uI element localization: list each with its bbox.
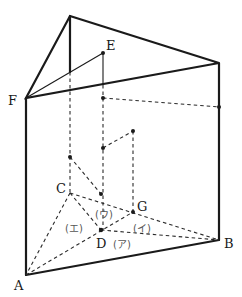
point-G (131, 210, 135, 214)
label-C: C (56, 181, 66, 196)
region-label-e: (エ) (65, 223, 83, 234)
region-label-u: (ウ) (95, 209, 113, 220)
point-D (99, 228, 103, 232)
region-label-a: (ア) (113, 239, 131, 250)
top-face (26, 16, 219, 98)
point-mid-right (131, 129, 135, 133)
label-F: F (8, 93, 17, 108)
point-upper (101, 96, 105, 100)
label-D: D (96, 236, 106, 251)
point-mid (101, 146, 105, 150)
label-G: G (137, 199, 147, 214)
point-E (101, 51, 105, 55)
point-back-lower (68, 155, 72, 159)
dashed-lower-diagonal (70, 157, 101, 194)
point-above-D (99, 192, 103, 196)
edge-C-A (26, 193, 70, 275)
region-label-i: (イ) (133, 223, 151, 234)
prism-diagram: F E C G D B A (ア) (イ) (ウ) (エ) (0, 0, 242, 297)
dashed-horizontal-upper (103, 98, 219, 107)
label-E: E (106, 38, 116, 53)
label-A: A (13, 278, 24, 293)
point-right-edge (217, 105, 221, 109)
label-B: B (224, 236, 234, 251)
dashed-mid-diagonal (103, 131, 133, 148)
